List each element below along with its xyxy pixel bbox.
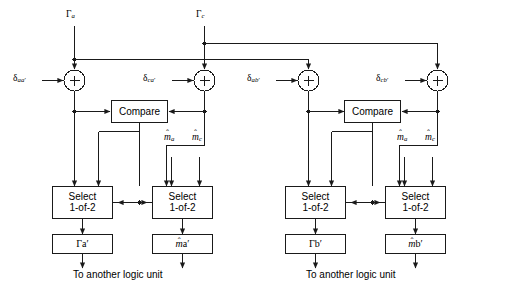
- junction-dot: [72, 57, 76, 61]
- output-label-m-hat-a-prime: ̂ma′: [153, 238, 213, 250]
- select-line-2: 1-of-2: [53, 202, 113, 213]
- label-delta-ab-prime: δab′: [247, 74, 260, 84]
- caption-right: To another logic unit: [306, 269, 396, 280]
- select-line-2: 1-of-2: [153, 202, 213, 213]
- junction-dot: [370, 200, 374, 204]
- label-m-hat-a: ̂ma: [164, 133, 174, 143]
- select-1of2-label: Select 1-of-2: [153, 191, 213, 213]
- select-line-1: Select: [286, 191, 346, 202]
- select-1of2-label: Select 1-of-2: [53, 191, 113, 213]
- label-m-hat-a: ̂ma: [397, 133, 407, 143]
- select-line-2: 1-of-2: [286, 202, 346, 213]
- select-1of2-label: Select 1-of-2: [286, 191, 346, 213]
- label-m-hat-c: ̂mc: [192, 133, 202, 143]
- label-gamma-c: Γc: [196, 10, 205, 20]
- junction-dot: [202, 41, 206, 45]
- label-delta-aa-prime: δaa′: [13, 74, 26, 84]
- output-label-m-hat-b-prime: ̂mb′: [386, 238, 446, 250]
- diagram-canvas: Γa Γc δaa′ δca′ δab′ δcb′ Compare Compar…: [0, 0, 512, 287]
- select-line-1: Select: [53, 191, 113, 202]
- caption-left: To another logic unit: [73, 269, 163, 280]
- compare-label: Compare: [112, 106, 168, 117]
- output-label-gamma-b-prime: Γb′: [286, 238, 346, 250]
- compare-label: Compare: [345, 106, 401, 117]
- label-m-hat-c: ̂mc: [425, 133, 435, 143]
- select-line-1: Select: [386, 191, 446, 202]
- select-line-2: 1-of-2: [386, 202, 446, 213]
- output-label-gamma-a-prime: Γa′: [53, 238, 113, 250]
- label-gamma-a: Γa: [66, 10, 75, 20]
- label-delta-cb-prime: δcb′: [376, 74, 389, 84]
- select-line-1: Select: [153, 191, 213, 202]
- label-delta-ca-prime: δca′: [143, 74, 156, 84]
- select-1of2-label: Select 1-of-2: [386, 191, 446, 213]
- junction-dot: [137, 200, 141, 204]
